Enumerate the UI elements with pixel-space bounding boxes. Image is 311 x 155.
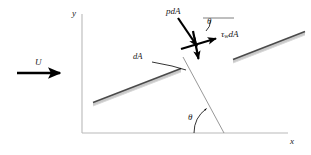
da-leader-line	[152, 62, 186, 70]
plate-lower-left	[93, 69, 181, 107]
plate-upper-right	[233, 32, 305, 64]
diagram-vector-layer	[0, 0, 311, 155]
y-axis-label: y	[72, 9, 76, 18]
shear-force-arrow	[181, 39, 216, 50]
lower-angle-theta-group	[194, 109, 207, 133]
plate-lower-left-top-edge	[93, 69, 181, 103]
plate-upper-right-top-edge	[233, 32, 305, 60]
pressure-force-label: pdA	[166, 7, 181, 16]
shear-force-da-text: dA	[229, 29, 239, 39]
figure-canvas: y x U dA pdA τwdA θ θ	[0, 0, 311, 155]
x-axis-label: x	[290, 137, 294, 146]
shear-force-label: τwdA	[221, 30, 239, 40]
plate-lower-left-bottom-edge	[93, 72, 181, 106]
pressure-force-label-text: pdA	[166, 6, 181, 16]
axes-group	[82, 14, 288, 133]
lower-angle-theta-label: θ	[188, 113, 192, 122]
lower-angle-arc	[194, 109, 207, 133]
upper-angle-theta-label: θ	[207, 17, 211, 26]
plate-upper-right-bottom-edge	[233, 35, 305, 63]
area-element-label: dA	[133, 52, 142, 61]
freestream-velocity-label: U	[35, 58, 42, 67]
